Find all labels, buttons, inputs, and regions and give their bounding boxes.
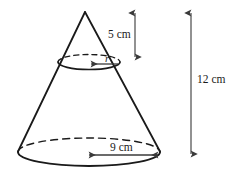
cone-left-slant-line [18, 12, 85, 152]
geometry-figure: 5 cm r 9 cm 12 cm [0, 0, 236, 181]
base-ellipse-hidden-arc [18, 138, 160, 152]
upper-height-label: 5 cm [108, 28, 131, 40]
base-radius-dimension: 9 cm [89, 141, 158, 155]
upper-radius-label: r [105, 52, 110, 64]
cone-diagram-canvas: 5 cm r 9 cm 12 cm [0, 0, 236, 181]
total-height-dimension: 12 cm [191, 13, 225, 154]
base-radius-label: 9 cm [110, 141, 133, 153]
top-ellipse-visible-arc [58, 62, 120, 70]
cone-body [18, 12, 160, 166]
base-ellipse-visible-arc [18, 152, 160, 166]
upper-height-dimension: 5 cm [108, 13, 135, 57]
total-height-label: 12 cm [197, 73, 225, 85]
